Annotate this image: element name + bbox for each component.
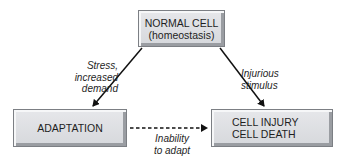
stress-label-line3: demand bbox=[58, 83, 118, 95]
cell-injury-box: CELL INJURY CELL DEATH bbox=[211, 109, 333, 147]
normal-cell-box: NORMAL CELL (homeostasis) bbox=[138, 10, 225, 47]
injurious-edge-label: Injurious stimulus bbox=[241, 68, 279, 91]
adaptation-box: ADAPTATION bbox=[13, 109, 127, 147]
homeostasis-label: (homeostasis) bbox=[149, 29, 215, 41]
cell-death-label: CELL DEATH bbox=[232, 128, 296, 140]
injurious-label-line2: stimulus bbox=[241, 80, 279, 92]
inability-edge-label: Inability to adapt bbox=[146, 133, 198, 156]
inability-label-line1: Inability bbox=[146, 133, 198, 145]
cell-injury-label: CELL INJURY bbox=[232, 116, 299, 128]
inability-label-line2: to adapt bbox=[146, 145, 198, 157]
stress-edge-label: Stress, increased demand bbox=[58, 60, 118, 95]
adaptation-label: ADAPTATION bbox=[37, 122, 103, 134]
injurious-label-line1: Injurious bbox=[241, 68, 279, 80]
stress-label-line1: Stress, bbox=[58, 60, 118, 72]
stress-label-line2: increased bbox=[58, 72, 118, 84]
normal-cell-label: NORMAL CELL bbox=[145, 17, 219, 29]
